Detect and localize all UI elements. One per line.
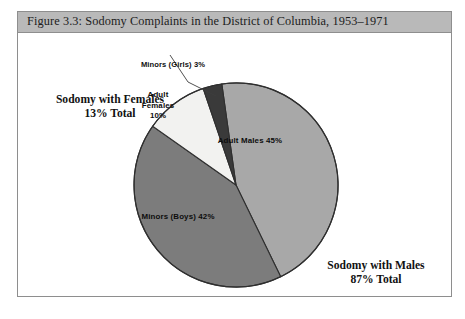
figure-page: Figure 3.3: Sodomy Complaints in the Dis… — [0, 0, 465, 319]
wedge-label-minors-boys: Minors (Boys) 42% — [113, 212, 243, 223]
wedge-label-adult-females-line1: Adult — [128, 90, 188, 101]
figure-title-band: Figure 3.3: Sodomy Complaints in the Dis… — [18, 12, 451, 33]
callout-males-line2: 87% Total — [301, 273, 451, 287]
callout-sodomy-with-males-total: Sodomy with Males 87% Total — [301, 259, 451, 287]
wedge-label-adult-females-line3: 10% — [128, 111, 188, 122]
figure-frame: Figure 3.3: Sodomy Complaints in the Dis… — [17, 11, 452, 297]
page-title: Figure 3.3: Sodomy Complaints in the Dis… — [27, 14, 389, 29]
callout-males-line1: Sodomy with Males — [301, 259, 451, 273]
wedge-label-adult-females: Adult Females 10% — [128, 90, 188, 122]
callout-minors-girls: Minors (Girls) 3% — [113, 60, 233, 69]
wedge-label-adult-males: Adult Males 45% — [195, 136, 305, 147]
wedge-label-adult-females-line2: Females — [128, 101, 188, 112]
pie-chart-svg — [18, 33, 451, 296]
pie-chart-plot-area: Minors (Girls) 3% Sodomy with Females 13… — [18, 33, 451, 296]
